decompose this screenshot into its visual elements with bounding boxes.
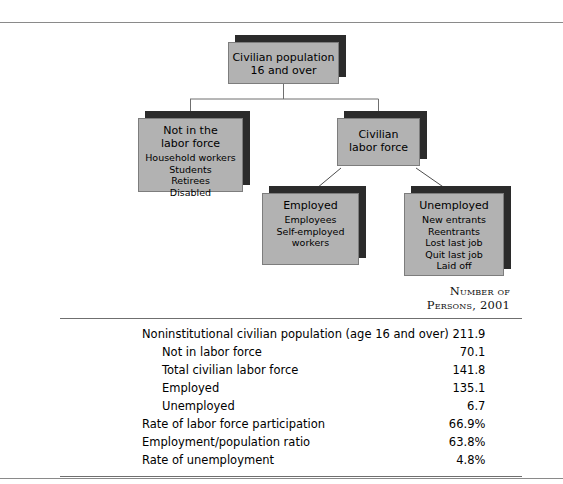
node-not-in-labor-force-items: Household workers Students Retirees Disa… (139, 152, 242, 202)
row-label: Rate of labor force participation (60, 415, 449, 433)
table-bottom-rule (60, 476, 522, 477)
row-label: Employment/population ratio (60, 433, 449, 451)
row-value: 66.9% (449, 415, 530, 433)
row-value: 211.9 (449, 325, 530, 343)
table-row: Employment/population ratio 63.8% (60, 433, 529, 451)
node-title-line1: Civilian (358, 128, 398, 141)
node-civilian-population: Civilian population 16 and over (228, 42, 339, 84)
node-unemployed: Unemployed New entrants Reentrants Lost … (404, 193, 504, 276)
page-bottom-rule (0, 478, 563, 479)
row-value: 70.1 (449, 343, 530, 361)
table-row: Noninstitutional civilian population (ag… (60, 325, 529, 343)
node-title-line2: 16 and over (250, 64, 316, 77)
node-title-line1: Not in the (163, 124, 217, 137)
node-unemployed-title: Unemployed (405, 194, 503, 212)
table-column-header: Number of Persons, 2001 (60, 284, 522, 312)
row-label: Employed (60, 379, 449, 397)
node-unemployed-items: New entrants Reentrants Lost last job Qu… (405, 214, 503, 276)
row-label: Total civilian labor force (60, 361, 449, 379)
row-label: Not in labor force (60, 343, 449, 361)
table-top-rule (60, 318, 522, 319)
row-label: Unemployed (60, 397, 449, 415)
list-item: Lost last job (405, 237, 503, 249)
list-item: workers (263, 237, 358, 249)
list-item: Employees (263, 214, 358, 226)
row-value: 6.7 (449, 397, 530, 415)
node-not-in-labor-force: Not in the labor force Household workers… (138, 118, 243, 192)
list-item: Self-employed (263, 226, 358, 238)
table-row: Unemployed 6.7 (60, 397, 529, 415)
list-item: Retirees (139, 175, 242, 187)
node-title-line2: labor force (161, 137, 220, 150)
list-item: Household workers (139, 152, 242, 164)
list-item: Laid off (405, 260, 503, 272)
table-row: Employed 135.1 (60, 379, 529, 397)
row-value: 4.8% (449, 451, 530, 469)
table-column-header-line2: Persons, 2001 (427, 298, 510, 312)
table-row: Rate of unemployment 4.8% (60, 451, 529, 469)
list-item: New entrants (405, 214, 503, 226)
node-title-line2: labor force (349, 141, 408, 154)
node-employed-items: Employees Self-employed workers (263, 214, 358, 253)
data-table-section: Number of Persons, 2001 Noninstitutional… (60, 284, 522, 477)
row-value: 141.8 (449, 361, 530, 379)
row-value: 135.1 (449, 379, 530, 397)
node-title-line1: Civilian population (232, 51, 334, 64)
data-table: Noninstitutional civilian population (ag… (60, 325, 529, 469)
row-label: Rate of unemployment (60, 451, 449, 469)
row-label: Noninstitutional civilian population (ag… (60, 325, 449, 343)
list-item: Quit last job (405, 249, 503, 261)
list-item: Disabled (139, 187, 242, 199)
table-row: Rate of labor force participation 66.9% (60, 415, 529, 433)
table-row: Not in labor force 70.1 (60, 343, 529, 361)
list-item: Students (139, 164, 242, 176)
node-civilian-labor-force: Civilian labor force (337, 118, 420, 166)
row-value: 63.8% (449, 433, 530, 451)
flowchart: Civilian population 16 and over Not in t… (0, 22, 563, 284)
table-row: Total civilian labor force 141.8 (60, 361, 529, 379)
node-civilian-population-title: Civilian population 16 and over (229, 43, 338, 77)
table-column-header-line1: Number of (450, 284, 510, 298)
node-employed: Employed Employees Self-employed workers (262, 193, 359, 265)
node-civilian-labor-force-title: Civilian labor force (338, 119, 419, 154)
node-not-in-labor-force-title: Not in the labor force (139, 119, 242, 150)
list-item: Reentrants (405, 226, 503, 238)
node-employed-title: Employed (263, 194, 358, 212)
